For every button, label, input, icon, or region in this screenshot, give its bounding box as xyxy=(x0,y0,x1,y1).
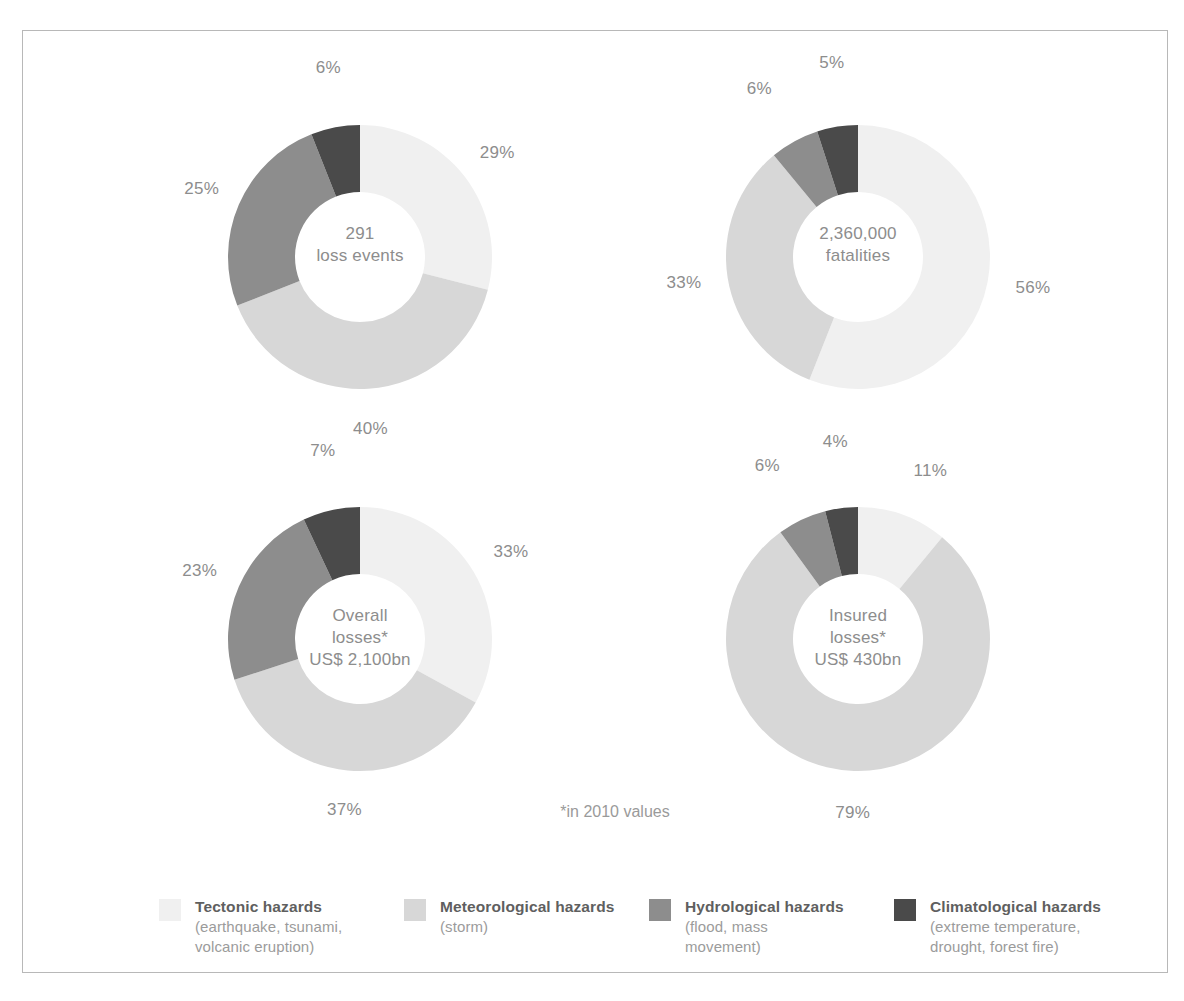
donut-ring-fatalities xyxy=(643,81,1073,461)
slice-percent-label: 33% xyxy=(493,542,528,562)
chart-page: 29%40%25%6%291 loss events 56%33%6%5%2,3… xyxy=(0,0,1184,1001)
donut-slice-tectonic-hazards xyxy=(360,507,492,703)
donut-chart-fatalities: 56%33%6%5%2,360,000 fatalities xyxy=(643,81,1073,441)
legend-title-climatological: Climatological hazards xyxy=(930,897,1101,917)
donut-chart-insured-losses: 11%79%6%4%Insured losses* US$ 430bn xyxy=(643,456,1073,816)
slice-percent-label: 4% xyxy=(823,432,848,452)
slice-percent-label: 23% xyxy=(182,561,217,581)
legend-subtitle-meteorological: (storm) xyxy=(440,917,614,937)
legend-title-hydrological: Hydrological hazards xyxy=(685,897,844,917)
slice-percent-label: 29% xyxy=(480,143,515,163)
chart-frame: 29%40%25%6%291 loss events 56%33%6%5%2,3… xyxy=(22,30,1168,973)
donut-slice-tectonic-hazards xyxy=(360,125,492,290)
legend-item-hydrological[interactable]: Hydrological hazards(flood, mass movemen… xyxy=(649,897,894,957)
donut-ring-overall-losses xyxy=(145,463,575,843)
legend-subtitle-tectonic: (earthquake, tsunami, volcanic eruption) xyxy=(195,917,342,957)
legend-text-meteorological: Meteorological hazards(storm) xyxy=(440,897,614,937)
slice-percent-label: 6% xyxy=(747,79,772,99)
legend-swatch-hydrological xyxy=(649,899,671,921)
legend-item-climatological[interactable]: Climatological hazards(extreme temperatu… xyxy=(894,897,1139,957)
legend-subtitle-climatological: (extreme temperature, drought, forest fi… xyxy=(930,917,1101,957)
legend-text-tectonic: Tectonic hazards(earthquake, tsunami, vo… xyxy=(195,897,342,957)
slice-percent-label: 11% xyxy=(913,461,947,481)
slice-percent-label: 5% xyxy=(819,53,844,73)
legend-swatch-tectonic xyxy=(159,899,181,921)
donut-chart-overall-losses: 33%37%23%7%Overall losses* US$ 2,100bn xyxy=(145,463,575,823)
legend-swatch-meteorological xyxy=(404,899,426,921)
donut-ring-insured-losses xyxy=(643,456,1073,836)
legend-text-hydrological: Hydrological hazards(flood, mass movemen… xyxy=(685,897,844,957)
slice-percent-label: 7% xyxy=(310,441,335,461)
legend-text-climatological: Climatological hazards(extreme temperatu… xyxy=(930,897,1101,957)
slice-percent-label: 6% xyxy=(316,58,341,78)
legend-item-meteorological[interactable]: Meteorological hazards(storm) xyxy=(404,897,649,937)
donut-ring-loss-events xyxy=(145,81,575,461)
slice-percent-label: 40% xyxy=(353,419,388,439)
slice-percent-label: 56% xyxy=(1016,278,1051,298)
legend-title-tectonic: Tectonic hazards xyxy=(195,897,342,917)
slice-percent-label: 25% xyxy=(184,179,219,199)
legend-title-meteorological: Meteorological hazards xyxy=(440,897,614,917)
legend: Tectonic hazards(earthquake, tsunami, vo… xyxy=(159,897,1139,957)
donut-slice-hydrological-hazards xyxy=(228,134,336,305)
footnote-text: *in 2010 values xyxy=(23,803,1184,821)
donut-chart-loss-events: 29%40%25%6%291 loss events xyxy=(145,81,575,441)
slice-percent-label: 6% xyxy=(755,456,780,476)
legend-swatch-climatological xyxy=(894,899,916,921)
legend-subtitle-hydrological: (flood, mass movement) xyxy=(685,917,844,957)
legend-item-tectonic[interactable]: Tectonic hazards(earthquake, tsunami, vo… xyxy=(159,897,404,957)
slice-percent-label: 33% xyxy=(667,273,702,293)
